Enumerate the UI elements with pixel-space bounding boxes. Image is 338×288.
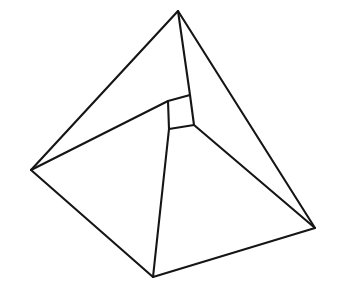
truncated-pyramid-figure [0,0,338,288]
figure-background [0,0,338,288]
